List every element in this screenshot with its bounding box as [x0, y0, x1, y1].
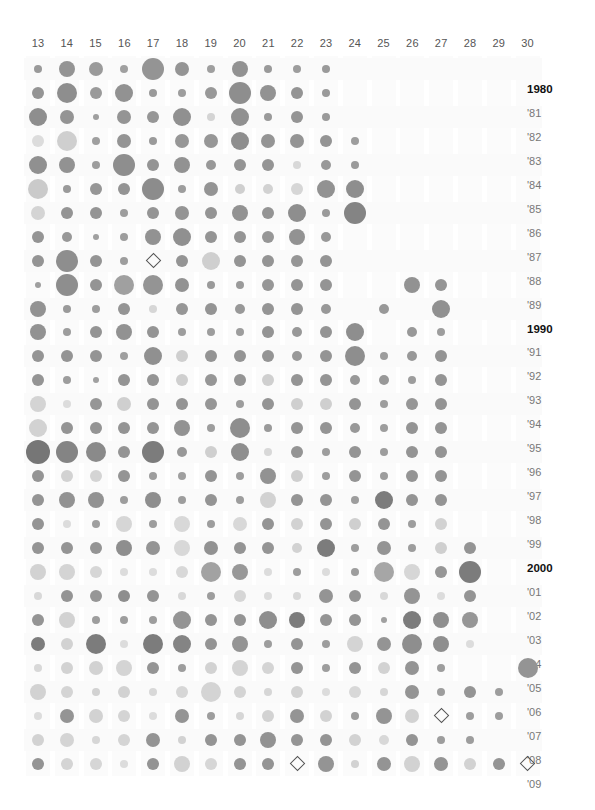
column-header-13: 13 — [23, 37, 53, 49]
marker-bubble — [89, 62, 103, 76]
marker-bubble — [205, 614, 217, 626]
marker-bubble — [90, 183, 102, 195]
marker-bubble — [317, 180, 335, 198]
marker-bubble — [379, 735, 389, 745]
marker-bubble — [380, 448, 388, 456]
row-stripe — [24, 106, 542, 128]
marker-bubble — [406, 734, 418, 746]
marker-bubble — [143, 275, 163, 295]
marker-bubble — [32, 255, 44, 267]
marker-bubble — [30, 564, 46, 580]
marker-bubble — [63, 520, 71, 528]
marker-bubble — [466, 712, 474, 720]
marker-bubble — [29, 156, 47, 174]
column-header-25: 25 — [369, 37, 399, 49]
marker-bubble — [93, 377, 99, 383]
marker-bubble — [176, 303, 188, 315]
column-header-17: 17 — [138, 37, 168, 49]
marker-bubble — [26, 440, 50, 464]
marker-bubble — [464, 542, 476, 554]
marker-bubble — [236, 712, 244, 720]
marker-bubble — [236, 281, 244, 289]
marker-bubble — [405, 709, 419, 723]
marker-bubble — [234, 542, 246, 554]
column-header-16: 16 — [109, 37, 139, 49]
marker-bubble — [381, 617, 387, 623]
marker-bubble — [321, 232, 331, 242]
marker-bubble — [236, 496, 244, 504]
marker-bubble — [178, 736, 186, 744]
marker-bubble — [34, 592, 42, 600]
row-label-07: '07 — [527, 730, 541, 742]
marker-bubble — [205, 638, 217, 650]
marker-bubble — [262, 255, 274, 267]
marker-bubble — [320, 255, 332, 267]
marker-bubble — [380, 592, 388, 600]
column-header-18: 18 — [167, 37, 197, 49]
marker-bubble — [178, 592, 186, 600]
marker-bubble — [89, 709, 103, 723]
marker-bubble — [234, 255, 246, 267]
marker-bubble — [31, 206, 45, 220]
marker-bubble — [236, 472, 244, 480]
marker-bubble — [322, 568, 330, 576]
row-stripe — [24, 154, 542, 176]
marker-bubble — [375, 491, 393, 509]
marker-bubble — [235, 184, 245, 194]
row-label-1980: 1980 — [527, 83, 553, 95]
marker-bubble — [466, 640, 474, 648]
marker-bubble — [34, 664, 42, 672]
row-label-01: '01 — [527, 586, 541, 598]
marker-bubble — [322, 65, 330, 73]
marker-bubble — [175, 709, 189, 723]
marker-bubble — [204, 182, 218, 196]
marker-bubble — [118, 303, 130, 315]
marker-bubble — [63, 185, 71, 193]
marker-bubble — [61, 470, 73, 482]
row-label-96: '96 — [527, 466, 541, 478]
marker-bubble — [60, 709, 74, 723]
marker-bubble — [90, 207, 102, 219]
row-label-89: '89 — [527, 299, 541, 311]
marker-bubble — [291, 303, 303, 315]
marker-bubble — [207, 520, 215, 528]
marker-bubble — [318, 756, 334, 772]
marker-bubble — [232, 636, 248, 652]
marker-bubble — [90, 350, 102, 362]
marker-bubble — [347, 636, 363, 652]
marker-bubble — [149, 305, 157, 313]
marker-bubble — [349, 590, 361, 602]
marker-bubble — [466, 736, 474, 744]
row-label-95: '95 — [527, 442, 541, 454]
marker-bubble — [232, 564, 248, 580]
marker-bubble — [61, 638, 73, 650]
marker-bubble — [174, 756, 190, 772]
row-label-94: '94 — [527, 418, 541, 430]
marker-bubble — [173, 635, 191, 653]
marker-bubble — [174, 540, 190, 556]
marker-bubble — [380, 400, 388, 408]
marker-bubble — [28, 179, 48, 199]
marker-bubble — [495, 688, 503, 696]
marker-bubble — [322, 113, 330, 121]
marker-bubble — [464, 758, 476, 770]
marker-bubble — [147, 111, 159, 123]
marker-bubble — [147, 662, 159, 674]
marker-bubble — [92, 305, 100, 313]
marker-bubble — [290, 709, 304, 723]
marker-bubble — [173, 228, 191, 246]
marker-bubble — [175, 206, 189, 220]
marker-bubble — [207, 65, 215, 73]
row-label-91: '91 — [527, 346, 541, 358]
marker-bubble — [59, 157, 75, 173]
marker-bubble — [56, 441, 78, 463]
marker-bubble — [291, 686, 303, 698]
marker-bubble — [90, 566, 102, 578]
marker-bubble — [92, 736, 100, 744]
marker-bubble — [322, 209, 330, 217]
marker-bubble — [317, 539, 335, 557]
marker-bubble — [146, 733, 160, 747]
marker-bubble — [232, 205, 248, 221]
marker-bubble — [290, 134, 304, 148]
marker-bubble — [88, 492, 104, 508]
